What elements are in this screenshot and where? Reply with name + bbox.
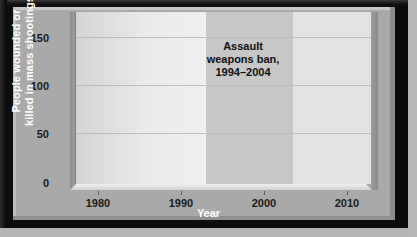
x-axis-title: Year: [0, 207, 417, 219]
card-top-highlight: [13, 7, 395, 10]
y-tick-label-0: 0: [19, 177, 49, 189]
x-tick-mark-1980: [98, 191, 99, 195]
y-axis-title-line-2: killed in mass shootings: [23, 0, 36, 146]
gridline-100: [76, 85, 371, 86]
chart-frame: 150 100 50 0 Assault wea: [0, 0, 417, 237]
x-tick-mark-2000: [264, 191, 265, 195]
annotation-assault-weapons-ban: Assault weapons ban, 1994–2004: [178, 40, 308, 79]
panel-right-wall: [371, 12, 378, 190]
panel-floor: [70, 183, 372, 190]
plot-panel: [76, 12, 371, 184]
gridline-50: [76, 133, 371, 134]
frame-left-bevel: [0, 0, 7, 237]
frame-top-bevel: [0, 0, 417, 6]
annotation-line-2: weapons ban,: [178, 53, 308, 66]
annotation-line-1: Assault: [178, 40, 308, 53]
y-axis-title: People wounded or killed in mass shootin…: [10, 0, 36, 146]
gridline-150: [76, 37, 371, 38]
y-axis-title-line-1: People wounded or: [10, 0, 23, 146]
annotation-line-3: 1994–2004: [178, 66, 308, 79]
chart-card: 150 100 50 0 Assault wea: [13, 7, 395, 220]
frame-bottom-strip: [0, 228, 417, 237]
x-tick-mark-2010: [347, 191, 348, 195]
frame-right-strip: [408, 0, 417, 237]
card-right-shadow: [390, 7, 395, 220]
x-tick-mark-1990: [181, 191, 182, 195]
